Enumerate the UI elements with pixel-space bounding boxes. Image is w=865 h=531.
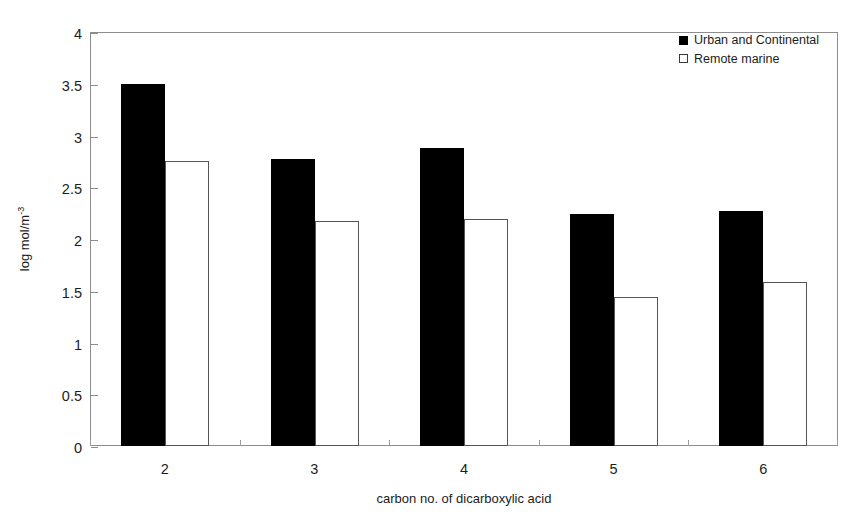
filled-square-icon (679, 36, 688, 45)
chart-legend: Urban and ContinentalRemote marine (679, 34, 819, 65)
y-axis-tick-label: 0 (74, 441, 82, 456)
bar-group-bars (389, 32, 539, 446)
x-axis-groups: 23456 (90, 32, 838, 446)
bar[interactable] (570, 214, 614, 446)
y-axis-tick-label: 1.5 (62, 286, 82, 301)
y-axis-tick-label: 0.5 (62, 389, 82, 404)
bar-group-bars (539, 32, 689, 446)
bar[interactable] (121, 84, 165, 446)
bar[interactable] (165, 161, 209, 446)
bar[interactable] (315, 221, 359, 446)
legend-item-label: Remote marine (694, 53, 779, 66)
legend-item[interactable]: Remote marine (679, 53, 819, 66)
y-axis-title-text: log mol/m (17, 215, 32, 271)
bar[interactable] (614, 297, 658, 446)
bar-group-bars (688, 32, 838, 446)
x-axis-title: carbon no. of dicarboxylic acid (90, 492, 838, 505)
bar-group: 4 (389, 32, 539, 446)
legend-item[interactable]: Urban and Continental (679, 34, 819, 47)
bar[interactable] (464, 219, 508, 446)
bar[interactable] (271, 159, 315, 446)
y-axis-title-superscript: -3 (16, 207, 26, 215)
x-axis-tick-label: 6 (688, 462, 838, 477)
y-axis-tick-label: 2 (74, 234, 82, 249)
legend-item-label: Urban and Continental (694, 34, 819, 47)
bar-chart: log mol/m-3 00.511.522.533.54 23456 carb… (0, 0, 865, 531)
open-square-icon (679, 54, 688, 63)
y-axis-tick-label: 1 (74, 337, 82, 352)
bar-group: 6 (688, 32, 838, 446)
y-axis-tick-label: 3 (74, 130, 82, 145)
bar-group: 2 (90, 32, 240, 446)
x-axis-tick-label: 4 (389, 462, 539, 477)
y-axis-tick-label: 4 (74, 27, 82, 42)
x-axis-tick-label: 2 (90, 462, 240, 477)
bar-group-bars (90, 32, 240, 446)
y-axis-title: log mol/m-3 (18, 139, 31, 339)
y-axis-tick: 0 (91, 447, 98, 448)
y-axis-tick-label: 2.5 (62, 182, 82, 197)
bar-group: 5 (539, 32, 689, 446)
bar[interactable] (719, 211, 763, 446)
x-axis-tick-label: 5 (539, 462, 689, 477)
bar[interactable] (763, 282, 807, 446)
x-axis-tick-label: 3 (240, 462, 390, 477)
bar-group: 3 (240, 32, 390, 446)
bar[interactable] (420, 148, 464, 446)
y-axis-tick-label: 3.5 (62, 79, 82, 94)
bar-group-bars (240, 32, 390, 446)
